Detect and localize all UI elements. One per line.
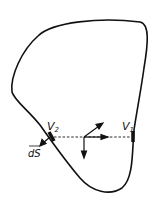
closed-surface-outline <box>12 20 147 192</box>
ds-label: dS <box>28 148 41 159</box>
ds-normal-arrow-icon <box>40 137 50 146</box>
surface-diagram: V2 V1 dS <box>0 0 159 198</box>
v1-label: V1 <box>122 120 134 134</box>
axes-icon <box>82 123 109 158</box>
v2-label: V2 <box>47 120 60 134</box>
